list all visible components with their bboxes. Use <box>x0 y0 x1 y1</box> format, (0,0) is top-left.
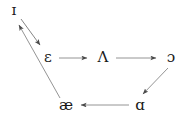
node-open-back-unrounded: ɑ <box>132 98 148 113</box>
node-open-mid-back-rounded: ɔ <box>163 50 179 65</box>
edge-openo-to-scripta <box>143 68 168 94</box>
node-near-open-front-unrounded: æ <box>56 98 76 113</box>
node-open-mid-back-unrounded: Λ <box>95 50 111 65</box>
edge-i-to-epsilon <box>21 19 40 45</box>
diagram-canvas <box>0 0 185 120</box>
vowel-shift-diagram: ɪ ɛ Λ ɔ æ ɑ <box>0 0 185 120</box>
node-open-mid-front-unrounded: ɛ <box>40 50 56 65</box>
node-near-close-front-unrounded: ɪ <box>6 3 22 18</box>
